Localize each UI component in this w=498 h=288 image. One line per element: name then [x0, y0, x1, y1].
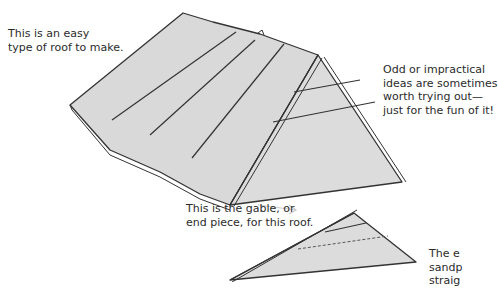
caption-line: sandp [429, 261, 462, 275]
caption-odd-ideas: Odd or impractical ideas are sometimes w… [383, 63, 498, 117]
caption-line: just for the fun of it! [383, 104, 498, 118]
caption-gable: This is the gable, or end piece, for thi… [186, 202, 313, 229]
caption-line: This is the gable, or [186, 202, 313, 216]
caption-line: worth trying out— [383, 90, 498, 104]
caption-line: ideas are sometimes [383, 77, 498, 91]
caption-line: Odd or impractical [383, 63, 498, 77]
caption-cut-off: The e sandp straig [429, 247, 462, 288]
caption-line: This is an easy [8, 27, 124, 41]
caption-line: The e [429, 247, 462, 261]
caption-line: straig [429, 274, 462, 288]
caption-line: end piece, for this roof. [186, 216, 313, 230]
caption-easy-roof: This is an easy type of roof to make. [8, 27, 124, 54]
caption-line: type of roof to make. [8, 41, 124, 55]
